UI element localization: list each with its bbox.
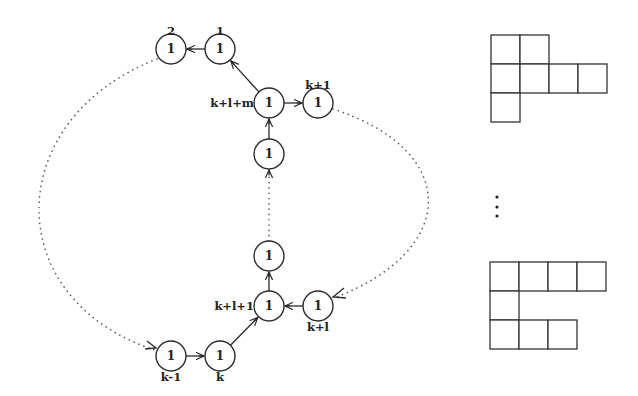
young-cell [491,64,520,93]
node-value: 1 [314,299,322,313]
node-value: 1 [265,96,273,110]
young-cell [491,35,520,64]
young-cell [490,262,519,291]
young-cell [548,262,577,291]
young-cell [520,35,549,64]
node-label: k+l [307,320,330,334]
young-cell [519,320,548,349]
node-value: 1 [167,349,175,363]
graph-node: 1 [254,139,284,169]
diagram-canvas: 12111k+l+m1k+1111k+l+11k+l1k-11k [0,0,638,396]
young-cell [490,320,519,349]
young-diagrams [490,35,607,349]
young-cell [490,291,519,320]
young-cell [578,64,607,93]
node-value: 1 [265,249,273,263]
node-label: 2 [167,24,175,38]
arrowhead-icon [333,288,346,298]
node-value: 1 [216,349,224,363]
arrowhead-icon [145,341,156,349]
vertical-ellipsis-icon [495,195,498,217]
edge-nk1top-to-nkl [333,109,428,298]
young-cell [549,64,578,93]
graph-node: 11 [205,24,235,64]
node-value: 1 [216,42,224,56]
node-value: 1 [265,147,273,161]
young-cell [520,64,549,93]
node-label: k-1 [161,370,181,384]
graph-node: 1k+l+1 [214,291,284,321]
graph-node: 1k [205,341,235,384]
graph-node: 1 [254,241,284,271]
edge-n2-to-nkm1 [39,59,157,350]
node-label: k+l+m [210,96,254,110]
node-value: 1 [167,42,175,56]
node-label: 1 [216,24,224,38]
young-cell [548,320,577,349]
graph-nodes: 12111k+l+m1k+1111k+l+11k+l1k-11k [156,24,333,384]
node-value: 1 [314,96,322,110]
node-value: 1 [265,299,273,313]
young-diagram-bottom [490,262,606,349]
graph-node: 1k-1 [156,341,186,384]
graph-node: 1k+l+m [210,88,284,118]
graph-node: 1k+l [303,291,333,334]
edge-nklm-to-n1 [231,61,259,92]
graph-node: 12 [156,24,186,64]
young-cell [491,93,520,122]
young-cell [577,262,606,291]
node-label: k+1 [305,78,331,92]
graph-node: 1k+1 [303,78,333,118]
node-label: k+l+1 [214,299,254,313]
young-diagram-top [491,35,607,122]
young-cell [519,262,548,291]
edge-nk-to-nkl1 [230,317,257,345]
node-label: k [216,370,225,384]
